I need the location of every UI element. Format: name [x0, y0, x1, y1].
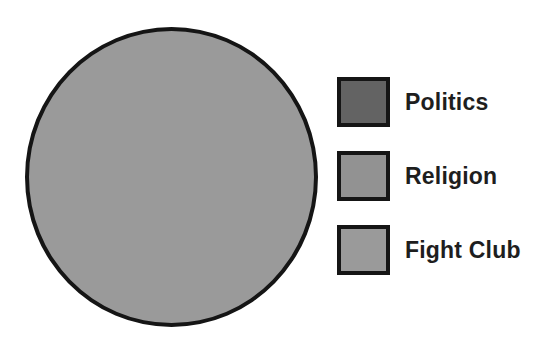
pie-chart: [25, 27, 318, 327]
legend: Politics Religion Fight Club: [337, 77, 521, 275]
pie-chart-figure: Politics Religion Fight Club: [0, 0, 556, 351]
legend-swatch-religion: [337, 151, 390, 201]
legend-swatch-fight-club: [337, 225, 390, 275]
legend-swatch-politics: [337, 77, 390, 127]
legend-item-fight-club: Fight Club: [337, 225, 521, 275]
legend-item-politics: Politics: [337, 77, 521, 127]
legend-label-fight-club: Fight Club: [405, 237, 521, 264]
legend-label-religion: Religion: [405, 163, 497, 190]
legend-label-politics: Politics: [405, 89, 488, 116]
legend-item-religion: Religion: [337, 151, 521, 201]
